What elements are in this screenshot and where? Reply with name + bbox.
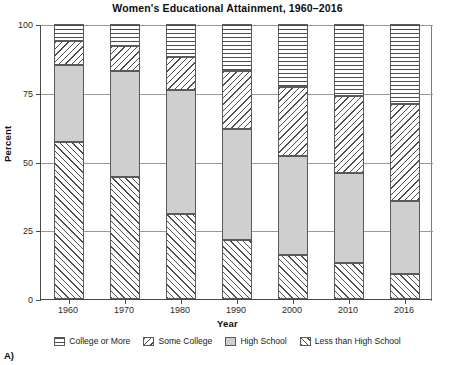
bar-segment-2000-less-than-high-school[interactable] (278, 255, 308, 299)
x-tick-label-2000: 2000 (282, 305, 302, 315)
legend-item-high-school[interactable]: High School (225, 336, 286, 346)
y-tick-label-25: 25 (7, 226, 33, 236)
legend-swatch-icon-back-diagonal (143, 337, 154, 346)
legend-item-some-college[interactable]: Some College (143, 336, 212, 346)
y-tick-label-75: 75 (7, 89, 33, 99)
chart-title: Women's Educational Attainment, 1960–201… (0, 2, 455, 14)
bar-segment-1980-less-than-high-school[interactable] (166, 214, 196, 299)
chart-container: Women's Educational Attainment, 1960–201… (0, 0, 455, 365)
x-tick-label-1970: 1970 (114, 305, 134, 315)
x-tick-mark-1980 (181, 299, 182, 304)
bar-segment-1960-some-college[interactable] (54, 41, 84, 66)
bar-segment-1970-high-school[interactable] (110, 71, 140, 177)
x-tick-label-2010: 2010 (338, 305, 358, 315)
panel-letter: A) (4, 350, 14, 361)
legend-swatch-icon-forward-diagonal (300, 337, 311, 346)
bar-segment-2000-college-or-more[interactable] (278, 24, 308, 87)
bar-2010[interactable] (334, 25, 364, 299)
legend-item-college-or-more[interactable]: College or More (54, 336, 130, 346)
bar-2000[interactable] (278, 25, 308, 299)
bar-1960[interactable] (54, 25, 84, 299)
y-tick-label-100: 100 (7, 20, 33, 30)
plot-area: 0255075100 (40, 25, 432, 300)
bar-segment-1970-less-than-high-school[interactable] (110, 177, 140, 299)
bar-segment-2000-some-college[interactable] (278, 87, 308, 156)
x-tick-label-1980: 1980 (170, 305, 190, 315)
bar-segment-2016-less-than-high-school[interactable] (390, 274, 420, 299)
x-tick-mark-1970 (125, 299, 126, 304)
bar-segment-1980-some-college[interactable] (166, 57, 196, 90)
bar-segment-1970-some-college[interactable] (110, 46, 140, 71)
bar-1970[interactable] (110, 25, 140, 299)
chart-legend: College or MoreSome CollegeHigh SchoolLe… (0, 336, 455, 346)
bar-segment-1990-less-than-high-school[interactable] (222, 240, 252, 299)
bar-segment-2000-high-school[interactable] (278, 156, 308, 255)
y-tick-mark-0 (36, 300, 41, 301)
bar-1990[interactable] (222, 25, 252, 299)
bar-segment-1960-less-than-high-school[interactable] (54, 142, 84, 299)
bar-segment-1960-high-school[interactable] (54, 65, 84, 142)
y-tick-mark-75 (36, 94, 41, 95)
bar-segment-1970-college-or-more[interactable] (110, 24, 140, 46)
x-tick-mark-2010 (349, 299, 350, 304)
legend-label: Less than High School (315, 336, 401, 346)
bar-segment-1980-college-or-more[interactable] (166, 24, 196, 57)
x-tick-mark-2016 (405, 299, 406, 304)
legend-swatch-icon-solid-gray (225, 337, 236, 346)
x-tick-label-1960: 1960 (58, 305, 78, 315)
y-tick-mark-100 (36, 25, 41, 26)
x-tick-mark-1990 (237, 299, 238, 304)
bar-segment-2010-college-or-more[interactable] (334, 24, 364, 96)
y-tick-label-0: 0 (7, 295, 33, 305)
x-tick-label-2016: 2016 (394, 305, 414, 315)
bar-segment-2016-some-college[interactable] (390, 104, 420, 202)
bar-segment-2010-high-school[interactable] (334, 173, 364, 264)
bar-segment-2016-high-school[interactable] (390, 201, 420, 274)
x-tick-mark-1960 (69, 299, 70, 304)
x-axis-title: Year (0, 318, 455, 329)
y-tick-mark-50 (36, 163, 41, 164)
bar-segment-1960-college-or-more[interactable] (54, 24, 84, 41)
bar-segment-1980-high-school[interactable] (166, 90, 196, 214)
x-tick-label-1990: 1990 (226, 305, 246, 315)
y-tick-label-50: 50 (7, 158, 33, 168)
y-tick-mark-25 (36, 231, 41, 232)
legend-swatch-icon-horizontal-lines (54, 337, 65, 346)
bar-segment-2016-college-or-more[interactable] (390, 24, 420, 104)
legend-label: College or More (69, 336, 130, 346)
bar-segment-1990-some-college[interactable] (222, 71, 252, 129)
bar-segment-2010-less-than-high-school[interactable] (334, 263, 364, 299)
bar-segment-1990-high-school[interactable] (222, 129, 252, 240)
legend-label: Some College (158, 336, 212, 346)
legend-label: High School (240, 336, 286, 346)
x-tick-mark-2000 (293, 299, 294, 304)
bar-1980[interactable] (166, 25, 196, 299)
legend-item-less-than-high-school[interactable]: Less than High School (300, 336, 401, 346)
bar-2016[interactable] (390, 25, 420, 299)
bar-segment-1990-college-or-more[interactable] (222, 24, 252, 71)
bar-segment-2010-some-college[interactable] (334, 96, 364, 173)
